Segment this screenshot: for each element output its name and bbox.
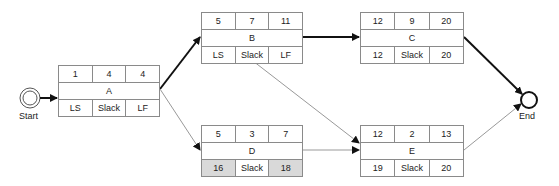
end-node-icon: [521, 92, 537, 108]
early-start: 5: [202, 126, 235, 142]
late-finish: LF: [125, 100, 159, 116]
late-finish: 20: [429, 160, 463, 176]
activity-node-e[interactable]: 12213 E 19Slack20: [360, 125, 464, 177]
early-finish: 7: [268, 126, 302, 142]
early-finish: 11: [268, 13, 302, 29]
late-finish: 18: [268, 160, 302, 176]
activity-node-b[interactable]: 5711 B LSSlackLF: [201, 12, 303, 64]
late-start: LS: [59, 100, 92, 116]
late-start: LS: [202, 47, 235, 63]
duration: 2: [394, 126, 428, 142]
start-node-icon: [20, 88, 40, 108]
duration: 7: [235, 13, 269, 29]
activity-name: D: [202, 143, 302, 159]
activity-name: B: [202, 30, 302, 46]
early-start: 12: [361, 126, 394, 142]
edge-a-b: [160, 37, 200, 89]
activity-node-c[interactable]: 12920 C 12Slack20: [360, 12, 464, 64]
late-finish: 20: [429, 47, 463, 63]
late-finish: LF: [268, 47, 302, 63]
activity-name: A: [59, 83, 159, 99]
slack: Slack: [235, 160, 269, 176]
edge-e-end: [464, 104, 521, 150]
slack: Slack: [394, 47, 428, 63]
early-finish: 20: [429, 13, 463, 29]
early-start: 12: [361, 13, 394, 29]
late-start: 12: [361, 47, 394, 63]
early-start: 5: [202, 13, 235, 29]
activity-name: C: [361, 30, 463, 46]
start-label: Start: [19, 111, 38, 121]
duration: 4: [92, 66, 126, 82]
edge-a-d: [160, 89, 200, 150]
activity-node-a[interactable]: 144 A LSSlackLF: [58, 65, 160, 117]
late-start: 16: [202, 160, 235, 176]
late-start: 19: [361, 160, 394, 176]
duration: 3: [235, 126, 269, 142]
edge-c-end: [464, 37, 522, 94]
slack: Slack: [92, 100, 126, 116]
early-finish: 13: [429, 126, 463, 142]
slack: Slack: [235, 47, 269, 63]
slack: Slack: [394, 160, 428, 176]
end-label: End: [519, 111, 535, 121]
activity-name: E: [361, 143, 463, 159]
early-start: 1: [59, 66, 92, 82]
duration: 9: [394, 13, 428, 29]
early-finish: 4: [125, 66, 159, 82]
activity-node-d[interactable]: 537 D 16Slack18: [201, 125, 303, 177]
